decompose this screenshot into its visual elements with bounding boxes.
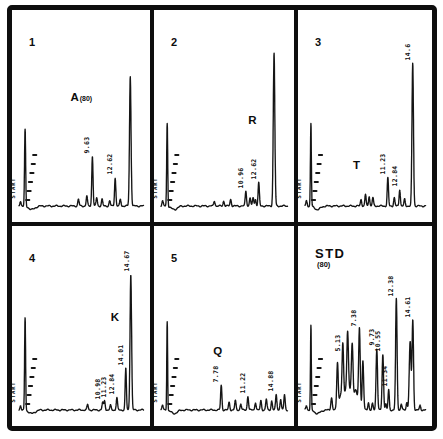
peak-annotation-letter: A [70,91,78,103]
retention-time-label: 14.6 [404,43,411,60]
retention-time-label: 7.78 [213,366,220,383]
chromatogram-trace [298,226,432,426]
retention-time-label: 12.84 [108,374,115,395]
retention-time-label: 12.62 [250,159,257,180]
start-label: START [298,381,302,402]
panel-3: 3 START11.2312.8414.6T [298,10,432,222]
trace-line [305,63,426,210]
integrator-tick-marks [26,155,36,200]
retention-time-label: 11.22 [239,372,246,393]
trace-line [161,53,288,210]
trace-line [161,322,288,414]
panel-1: 1 START9.6312.62A(80) [12,10,150,222]
chromatogram-trace [12,10,150,222]
retention-time-label: 12.38 [388,275,395,296]
panel-5: 5 START7.7811.2214.88Q [154,226,294,426]
retention-time-label: 11.34 [381,366,388,387]
peak-annotation: K [111,312,119,324]
trace-line [19,276,144,414]
start-label: START [12,381,16,402]
retention-time-label: 14.88 [268,371,275,392]
panel-2: 2 START10.9612.62R [154,10,294,222]
chromatogram-trace [154,226,294,426]
peak-annotation: Q [213,346,222,358]
retention-time-label: 10.55 [375,330,382,351]
retention-time-label: 14.01 [117,344,124,365]
chromatogram-trace [298,10,432,222]
peak-annotation: A(80) [70,92,92,104]
retention-time-label: 5.13 [334,335,341,352]
peak-annotation-letter: T [353,159,360,171]
retention-time-label: 11.23 [101,377,108,398]
peak-annotation: T [353,160,360,172]
integrator-tick-marks [168,155,178,200]
start-label: START [154,381,158,402]
retention-time-label: 11.23 [379,154,386,175]
integrator-tick-marks [26,359,36,404]
chromatogram-trace [154,10,294,222]
retention-time-label: 12.62 [107,154,114,175]
retention-time-label: 7.38 [351,310,358,327]
peak-annotation-letter: Q [213,345,222,357]
peak-annotation-letter: R [248,114,256,126]
retention-time-label: 14.67 [124,250,131,271]
integrator-tick-marks [312,359,322,404]
chromatogram-grid: 1 START9.6312.62A(80) 2 START10.9612.62R… [7,5,437,431]
integrator-tick-marks [312,155,322,200]
start-label: START [12,177,16,198]
panel-std: STD (80) START5.137.389.7310.5511.3412.3… [298,226,432,426]
start-label: START [154,177,158,198]
integrator-tick-marks [168,359,178,404]
panel-4: 4 START10.9811.2312.8414.0114.67K [12,226,150,426]
retention-time-label: 14.61 [404,297,411,318]
start-label: START [298,177,302,198]
peak-annotation-letter: K [111,311,119,323]
retention-time-label: 12.84 [391,165,398,186]
peak-annotation: R [248,115,256,127]
peak-annotation-suffix: (80) [80,95,92,102]
retention-time-label: 9.63 [84,136,91,153]
retention-time-label: 10.96 [237,167,244,188]
